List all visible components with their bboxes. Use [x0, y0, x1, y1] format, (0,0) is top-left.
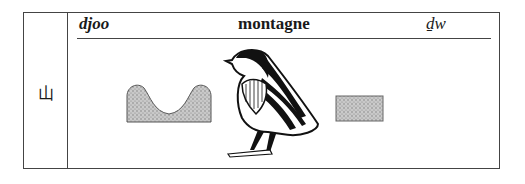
rectangle-sign-icon	[335, 95, 385, 123]
column-separator	[67, 12, 68, 169]
quail-chick-sign-icon	[222, 44, 322, 160]
header-rule	[77, 38, 491, 39]
gloss: montagne	[238, 13, 398, 35]
chinese-character: 山	[38, 80, 54, 104]
mountain-sign-icon	[124, 82, 214, 126]
transliteration: ḏw	[426, 13, 446, 35]
pronunciation: djoo	[79, 13, 109, 35]
